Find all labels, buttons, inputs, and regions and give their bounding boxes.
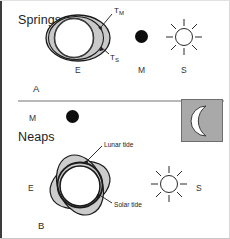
panel-a-moon-label: M <box>138 66 145 75</box>
sun-icon-b <box>151 166 187 202</box>
neaps-lunar-bulge <box>48 148 112 222</box>
lunar-tide-symbol-a: TM <box>114 7 124 15</box>
sun-disc-a <box>176 29 193 46</box>
solar-tide-symbol-a: TS <box>110 54 119 62</box>
panel-a-earth-label: E <box>75 66 81 75</box>
earth-body-b <box>60 166 100 206</box>
tide-diagram-figure: Springs TM TS E M S A M Neaps Lunar tide… <box>0 0 230 239</box>
sun-ray-se-a <box>192 45 197 50</box>
lunar-tide-callout: Lunar tide <box>104 142 133 149</box>
sun-disc-b <box>161 176 178 193</box>
lunar-tide-leader-a <box>102 14 112 26</box>
sun-ray-se-b <box>177 192 182 197</box>
panel-a-letter: A <box>33 84 39 94</box>
moon-body-icon-b <box>66 110 79 123</box>
sun-ray-sw-b <box>156 192 161 197</box>
neaps-earth-outer-ring <box>58 163 103 208</box>
figure-border-left <box>0 0 2 239</box>
panel-a-sun-label: S <box>181 66 187 75</box>
panel-b-title: Neaps <box>18 131 55 144</box>
lunar-tide-leader-b <box>88 146 102 160</box>
moon-phase-inset <box>181 99 223 142</box>
neaps-tide-group <box>43 148 117 222</box>
moon-body-icon-a <box>135 30 148 43</box>
neaps-leader-lines <box>88 146 112 203</box>
solar-tide-callout: Solar tide <box>114 202 142 209</box>
sun-ray-ne-a <box>192 24 197 29</box>
solar-tide-arrowhead-b <box>96 194 101 198</box>
lunar-tide-arrowhead-b <box>84 160 88 165</box>
sun-ray-sw-a <box>171 45 176 50</box>
panel-b-letter: B <box>38 221 44 231</box>
sun-ray-nw-a <box>171 24 176 29</box>
solar-tide-arrowhead-a <box>99 47 103 51</box>
panel-a-title: Springs <box>18 14 61 27</box>
springs-leader-lines <box>101 14 112 54</box>
panel-b-sun-label: S <box>196 184 202 193</box>
panel-b-moon-label: M <box>29 114 36 123</box>
sun-ray-ne-b <box>177 171 182 176</box>
panel-b-earth-label: E <box>28 184 34 193</box>
solar-tide-leader-a <box>101 47 109 54</box>
figure-border-right <box>229 0 230 239</box>
solar-tide-leader-b <box>98 194 112 203</box>
lunar-tide-arrowhead-a <box>98 26 102 30</box>
neaps-solar-bulge <box>43 153 117 217</box>
figure-border-top <box>0 0 230 1</box>
figure-border-bottom <box>0 238 230 239</box>
sun-icon-a <box>166 19 202 55</box>
sun-ray-nw-b <box>156 171 161 176</box>
